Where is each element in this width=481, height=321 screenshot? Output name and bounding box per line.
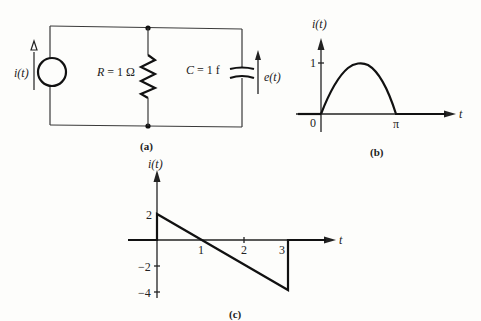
y-axis-arrow-icon — [154, 170, 161, 182]
chart-c-x-tick-3: 3 — [279, 243, 285, 257]
chart-b-x-tick: π — [393, 117, 399, 131]
chart-c-y-tick-neg2: −2 — [138, 260, 151, 274]
half-sine-curve — [321, 63, 446, 114]
chart-c-y-label: i(t) — [148, 157, 163, 171]
caption-b: (b) — [370, 146, 384, 159]
ramp-waveform — [128, 214, 326, 290]
chart-b-y-tick: 1 — [310, 56, 316, 70]
current-source-icon — [38, 58, 66, 86]
capacitor-plate-top — [230, 68, 254, 70]
chart-b-x-label: t — [459, 107, 463, 121]
chart-c-y-tick-neg4: −4 — [138, 286, 151, 300]
capacitor-plate-bottom — [230, 76, 254, 78]
source-arrowhead-icon — [31, 41, 37, 50]
source-label: i(t) — [14, 66, 29, 80]
y-axis-arrow-icon — [318, 38, 325, 50]
chart-c-x-tick-1: 1 — [198, 243, 204, 257]
chart-b — [296, 38, 456, 132]
chart-c-x-label: t — [339, 233, 343, 247]
capacitor-label: C = 1 f — [186, 63, 220, 77]
resistor-icon — [141, 55, 155, 98]
chart-c-y-tick-2: 2 — [146, 208, 152, 222]
caption-c: (c) — [229, 308, 242, 321]
chart-b-origin: 0 — [310, 116, 316, 130]
voltage-label: e(t) — [264, 70, 281, 84]
chart-c-x-tick-2: 2 — [241, 243, 247, 257]
voltage-arrowhead-icon — [255, 50, 261, 60]
resistor-label: R = 1 Ω — [96, 65, 135, 79]
chart-b-y-label: i(t) — [312, 17, 327, 31]
circuit-diagram — [31, 25, 261, 128]
chart-c — [128, 170, 336, 298]
caption-a: (a) — [140, 140, 153, 153]
figure-canvas: i(t) R = 1 Ω C = 1 f e(t) (a) i(t) 1 0 π… — [0, 0, 481, 321]
